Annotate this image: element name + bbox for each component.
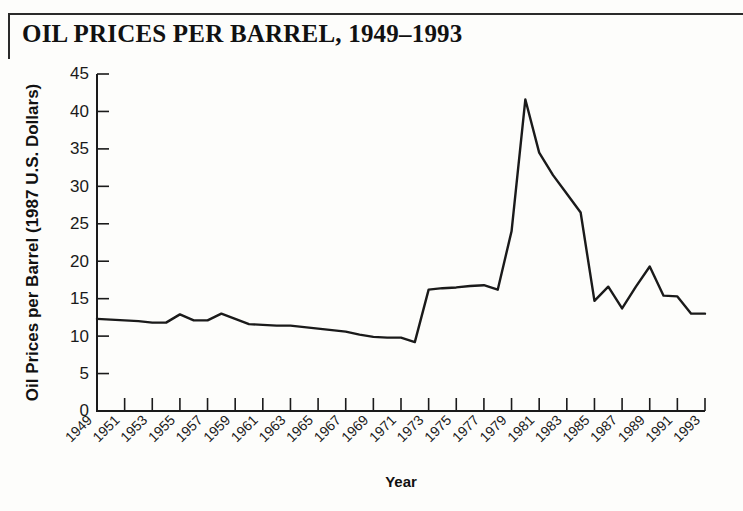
x-tick-label: 1965 <box>283 412 316 445</box>
y-tick-label: 35 <box>70 139 89 158</box>
x-tick-label: 1979 <box>476 412 509 445</box>
x-axis-ticks <box>97 398 705 411</box>
y-tick-label: 10 <box>70 327 89 346</box>
x-axis-tick-labels: 1949195119531955195719591961196319651967… <box>62 412 703 445</box>
x-tick-label: 1989 <box>615 412 648 445</box>
x-tick-label: 1987 <box>587 412 620 445</box>
y-tick-label: 30 <box>70 177 89 196</box>
x-axis-title: Year <box>385 473 417 490</box>
y-axis-title: Oil Prices per Barrel (1987 U.S. Dollars… <box>23 84 42 401</box>
x-tick-label: 1957 <box>172 412 205 445</box>
x-tick-label: 1985 <box>559 412 592 445</box>
x-tick-label: 1983 <box>532 412 565 445</box>
x-tick-label: 1991 <box>642 412 675 445</box>
x-tick-label: 1951 <box>89 412 122 445</box>
y-axis-ticks <box>97 74 109 411</box>
x-tick-label: 1973 <box>393 412 426 445</box>
x-tick-label: 1961 <box>228 412 261 445</box>
chart-container: 051015202530354045 194919511953195519571… <box>0 0 743 511</box>
y-axis-tick-labels: 051015202530354045 <box>70 64 89 420</box>
data-series-line <box>97 99 705 342</box>
y-tick-label: 15 <box>70 289 89 308</box>
figure-page: OIL PRICES PER BARREL, 1949–1993 0510152… <box>0 0 743 511</box>
x-tick-label: 1955 <box>145 412 178 445</box>
y-tick-label: 5 <box>80 364 89 383</box>
x-tick-label: 1993 <box>670 412 703 445</box>
y-tick-label: 25 <box>70 214 89 233</box>
x-tick-label: 1971 <box>366 412 399 445</box>
y-tick-label: 45 <box>70 64 89 83</box>
x-tick-label: 1981 <box>504 412 537 445</box>
oil-price-line-chart: 051015202530354045 194919511953195519571… <box>0 0 743 511</box>
x-tick-label: 1975 <box>421 412 454 445</box>
axis-frame <box>97 74 705 411</box>
x-tick-label: 1963 <box>255 412 288 445</box>
x-tick-label: 1949 <box>62 412 95 445</box>
x-tick-label: 1969 <box>338 412 371 445</box>
x-tick-label: 1967 <box>311 412 344 445</box>
x-tick-label: 1977 <box>449 412 482 445</box>
y-tick-label: 40 <box>70 102 89 121</box>
x-tick-label: 1953 <box>117 412 150 445</box>
y-tick-label: 20 <box>70 252 89 271</box>
x-tick-label: 1959 <box>200 412 233 445</box>
